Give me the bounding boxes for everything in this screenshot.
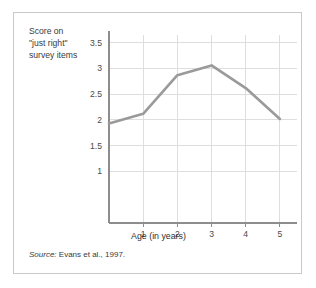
y-tick-label: 1.5 [69,141,102,151]
y-axis-title: Score on "just right" survey items [29,25,99,62]
axes-group [109,31,297,223]
y-tick-label: 2 [69,115,102,125]
source-label: Source: [29,250,57,259]
source-note: Source: Evans et al., 1997. [29,250,125,259]
y-tick-label: 1 [69,166,102,176]
figure-frame: 11.522.533.5 12345 Score on "just right"… [13,12,302,274]
y-tick-label: 3 [69,63,102,73]
gridlines-group [109,35,297,223]
x-axis-title: Age (in years) [14,231,303,241]
source-citation: Evans et al., 1997. [57,250,126,259]
y-tick-label: 2.5 [69,89,102,99]
